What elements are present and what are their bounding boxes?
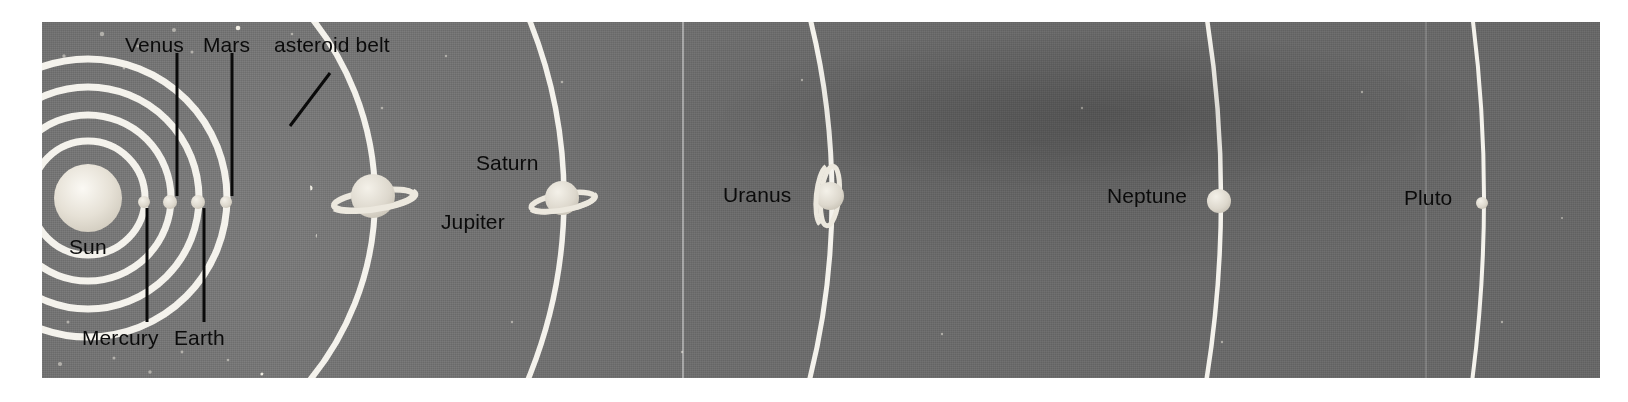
label-pluto: Pluto [1404,187,1452,208]
label-saturn: Saturn [476,152,538,173]
label-earth: Earth [174,327,225,348]
star-speck-field [58,28,1563,374]
label-uranus: Uranus [723,184,791,205]
orbit-neptune [42,22,1221,378]
leader-line-asteroid-belt [290,73,330,126]
scan-seam-left [682,22,684,378]
body-sun [54,164,122,232]
body-pluto [1476,197,1488,209]
body-neptune [1207,189,1231,213]
body-mars [220,196,232,208]
label-asteroid-belt: asteroid belt [274,34,390,55]
body-uranus [813,165,844,227]
body-venus [163,195,177,209]
solar-system-plate: Venus Mars asteroid belt Saturn Jupiter … [42,22,1600,378]
body-earth [191,195,205,209]
body-jupiter [333,174,417,218]
label-jupiter: Jupiter [441,211,505,232]
label-venus: Venus [125,34,184,55]
body-saturn [530,181,597,216]
body-mercury [138,196,150,208]
figure-canvas: Venus Mars asteroid belt Saturn Jupiter … [0,0,1628,402]
label-mercury: Mercury [82,327,159,348]
label-mars: Mars [203,34,250,55]
orbit-and-body-layer [42,22,1600,378]
label-sun: Sun [69,236,107,257]
label-neptune: Neptune [1107,185,1187,206]
